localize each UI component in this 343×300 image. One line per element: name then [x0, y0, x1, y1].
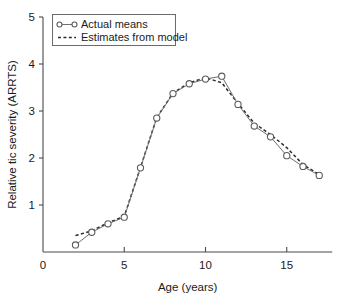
series-line-actual-means [76, 76, 320, 245]
y-tick-label-3: 3 [29, 105, 35, 117]
y-tick-label-4: 4 [29, 58, 36, 70]
legend-swatch-marker-right [72, 22, 77, 27]
legend-label-actual-means: Actual means [81, 18, 148, 30]
x-tick-label-0: 0 [40, 259, 46, 271]
data-point-age-4 [105, 221, 111, 227]
data-point-age-14 [267, 134, 273, 140]
chart-series [72, 73, 322, 248]
data-point-age-3 [89, 229, 95, 235]
data-point-age-17 [316, 172, 322, 178]
y-axis-title: Relative tic severity (ARRTS) [6, 60, 18, 209]
x-tick-label-10: 10 [199, 259, 212, 271]
data-point-age-15 [284, 153, 290, 159]
y-tick-label-5: 5 [29, 11, 35, 23]
data-point-age-9 [186, 81, 192, 87]
series-line-estimates-from-model [76, 78, 320, 236]
data-point-age-6 [137, 165, 143, 171]
legend-label-estimates-from-model: Estimates from model [81, 31, 187, 43]
y-axis-ticks: 12345 [29, 11, 43, 211]
chart-axes [43, 17, 332, 252]
chart-legend: Actual means Estimates from model [53, 15, 188, 46]
data-point-age-7 [154, 115, 160, 121]
data-point-age-12 [235, 101, 241, 107]
x-axis-title: Age (years) [158, 281, 218, 293]
x-tick-label-15: 15 [280, 259, 293, 271]
data-point-age-2 [72, 242, 78, 248]
data-point-age-11 [219, 73, 225, 79]
chart-figure: 12345 051015 Age (years) Relative tic se… [0, 0, 343, 300]
data-point-age-10 [202, 76, 208, 82]
x-tick-label-5: 5 [121, 259, 127, 271]
data-point-age-5 [121, 214, 127, 220]
y-tick-label-2: 2 [29, 152, 35, 164]
data-point-age-16 [300, 163, 306, 169]
chart-svg: 12345 051015 Age (years) Relative tic se… [0, 0, 343, 300]
x-axis-ticks: 051015 [40, 247, 293, 271]
data-point-age-13 [251, 123, 257, 129]
data-point-age-8 [170, 91, 176, 97]
legend-swatch-marker-left [57, 22, 62, 27]
y-tick-label-1: 1 [29, 199, 35, 211]
series-markers-actual-means [72, 73, 322, 248]
